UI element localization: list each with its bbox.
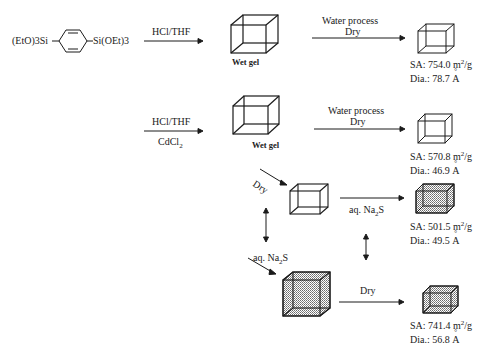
precursor-right-group: Si(OEt)3: [93, 35, 129, 46]
process-label-row1-line2: Dry: [345, 26, 361, 37]
process-label-row2-line1: Water process: [328, 105, 384, 116]
product2-sa-text: SA: 570.8 m: [410, 151, 461, 162]
reagent-label-row2-bottom: CdCl2: [158, 136, 183, 147]
product3-sa-tail: /g: [464, 221, 472, 232]
na2s-right-text: aq. Na: [349, 204, 375, 215]
product1-sa-text: SA: 754.0 m: [410, 59, 461, 70]
na2s-left-text: aq. Na: [253, 252, 279, 263]
product2-sa: SA: 570.8 m2/g: [410, 151, 472, 162]
angstrom-unit: A: [452, 165, 459, 176]
angstrom-unit: A: [452, 235, 459, 246]
product3-dia-text: Dia.: 49.5: [410, 235, 452, 246]
double-arrow-vertical-right: [364, 234, 369, 260]
na2s-left-tail: S: [283, 252, 289, 263]
product4-sa-text: SA: 741.4 m: [410, 320, 461, 331]
product4-dia-text: Dia.: 56.8: [410, 334, 452, 345]
product1-sa: SA: 754.0 m2/g: [410, 59, 472, 70]
na2s-label-left: aq. Na2S: [253, 252, 288, 263]
dried-cube-icon: [290, 184, 328, 214]
product4-sa-tail: /g: [464, 320, 472, 331]
product2-dia: Dia.: 46.9 A: [410, 165, 459, 176]
arrow-hcl-thf-1: [144, 39, 203, 44]
precursor-right-text: Si(OEt)3: [93, 35, 129, 46]
arrow-dry-bottom: [339, 300, 404, 305]
product3-dia: Dia.: 49.5 A: [410, 235, 459, 246]
product1-dia-text: Dia.: 78.7: [410, 73, 452, 84]
double-arrow-vertical-left: [264, 208, 269, 242]
reagent-label-row2-top: HCl/THF: [152, 116, 190, 127]
cdcl-text: CdCl: [158, 136, 179, 147]
angstrom-unit: A: [452, 73, 459, 84]
benzene-ring-icon: [52, 30, 93, 52]
precursor-left-group: (EtO)3Si: [12, 35, 48, 46]
product4-sa: SA: 741.4 m2/g: [410, 320, 472, 331]
reagent-label-row1: HCl/THF: [152, 26, 190, 37]
sulfided-cube-icon: [416, 184, 454, 213]
product3-sa-text: SA: 501.5 m: [410, 221, 461, 232]
product-cube-icon-1: [418, 24, 454, 53]
product4-dia: Dia.: 56.8 A: [410, 334, 459, 345]
arrow-hcl-thf-cdcl2: [144, 129, 203, 134]
dry-label-bottom: Dry: [360, 285, 376, 296]
arrow-na2s-right: [340, 196, 404, 201]
wet-gel-cube-icon-2: [233, 96, 279, 134]
na2s-right-tail: S: [379, 204, 385, 215]
wet-gel-label-row2: Wet gel: [252, 140, 279, 150]
process-label-row1-line1: Water process: [322, 15, 378, 26]
cdcl-sub: 2: [179, 142, 183, 150]
product2-sa-tail: /g: [464, 151, 472, 162]
product2-dia-text: Dia.: 46.9: [410, 165, 452, 176]
product-cube-icon-2: [418, 114, 452, 143]
precursor-left-text: (EtO)3Si: [12, 35, 48, 46]
product3-sa: SA: 501.5 m2/g: [410, 221, 472, 232]
process-label-row2-line2: Dry: [350, 116, 366, 127]
arrow-water-process-2: [314, 127, 405, 132]
product1-dia: Dia.: 78.7 A: [410, 73, 459, 84]
scheme-graphics: [0, 0, 490, 352]
angstrom-unit: A: [452, 334, 459, 345]
na2s-label-right: aq. Na2S: [349, 204, 384, 215]
product1-sa-tail: /g: [464, 59, 472, 70]
final-cube-icon: [423, 286, 458, 313]
wet-gel-label-row1: Wet gel: [232, 57, 259, 67]
wet-gel-cube-icon-1: [231, 15, 278, 53]
wet-sulfided-cube-icon: [283, 272, 330, 316]
